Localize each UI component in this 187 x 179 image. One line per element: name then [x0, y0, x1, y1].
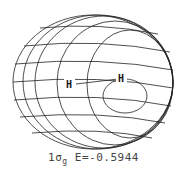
inner-surface [103, 79, 147, 113]
latitude-7 [32, 131, 152, 138]
latitude-2 [24, 43, 170, 52]
orbital-caption: 1σg E=-0.5944 [0, 151, 187, 166]
atom-label-h-left: H [66, 79, 72, 90]
atom-label-h-right: H [118, 73, 124, 84]
orbital-subscript: g [62, 157, 67, 166]
energy-label: E=-0.5944 [75, 151, 139, 164]
latitude-3 [15, 61, 173, 70]
latitude-4 [13, 79, 173, 88]
latitude-6 [20, 115, 165, 123]
